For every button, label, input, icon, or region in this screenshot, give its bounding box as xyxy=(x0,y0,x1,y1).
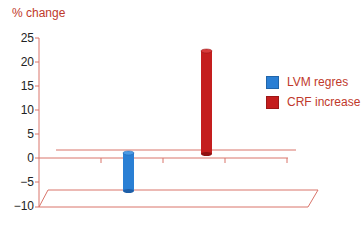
axes xyxy=(35,38,318,207)
bar-lvm-regres xyxy=(123,151,134,193)
legend-label: LVM regres xyxy=(287,75,348,89)
legend: LVM regres CRF increase xyxy=(266,72,360,112)
bar-crf-increase xyxy=(201,49,212,156)
legend-item-lvm: LVM regres xyxy=(266,72,360,92)
legend-swatch-blue xyxy=(266,76,279,89)
legend-item-crf: CRF increase xyxy=(266,92,360,112)
legend-swatch-red xyxy=(266,96,279,109)
legend-label: CRF increase xyxy=(287,95,360,109)
